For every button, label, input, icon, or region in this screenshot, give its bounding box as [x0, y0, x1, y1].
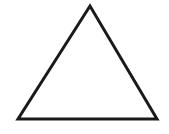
triangle-icon: [0, 0, 169, 134]
diagram-canvas: [0, 0, 169, 134]
triangle-shape: [18, 6, 157, 119]
